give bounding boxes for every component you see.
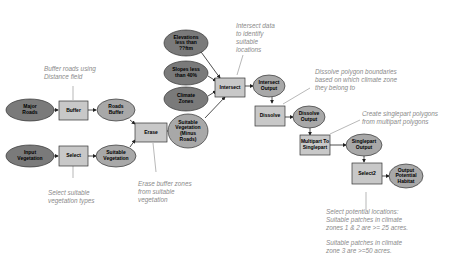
- erase-annotation: Erase buffer zones from suitable vegetat…: [138, 180, 192, 204]
- elevations-node[interactable]: [164, 30, 208, 56]
- climate-zones-node[interactable]: [164, 87, 208, 111]
- buffer-annotation: Buffer roads using Distance field: [44, 65, 96, 81]
- intersect-annotation: Intersect data to identify suitable loca…: [236, 22, 275, 54]
- suitable-veg-minus-roads-node[interactable]: [168, 114, 208, 148]
- singlepart-note-line: [330, 120, 360, 134]
- select2-annotation-1: Select potential locations: Suitable pat…: [326, 208, 408, 232]
- intersect-tool[interactable]: [215, 78, 245, 97]
- intersect-output-node[interactable]: [253, 75, 285, 97]
- erase-tool[interactable]: [135, 123, 167, 142]
- suitable-vegetation-node[interactable]: [96, 145, 136, 167]
- input-vegetation-node[interactable]: [6, 145, 54, 167]
- dissolve-note-line: [283, 88, 310, 104]
- dissolve-tool[interactable]: [255, 106, 285, 126]
- slopes-node[interactable]: [164, 61, 208, 85]
- intersect-note-line: [237, 55, 243, 75]
- output-potential-habitat-node[interactable]: [389, 164, 423, 188]
- roads-buffer-node[interactable]: [97, 99, 135, 121]
- dissolve-output-node[interactable]: [293, 106, 325, 128]
- select2-tool[interactable]: [352, 163, 382, 184]
- select-annotation: Select suitable vegetation types: [48, 189, 95, 205]
- buffer-tool[interactable]: [59, 101, 88, 120]
- dissolve-annotation: Dissolve polygon boundaries based on whi…: [315, 68, 397, 92]
- singlepart-annotation: Create singlepart polygons from multipar…: [362, 110, 438, 126]
- select2-annotation-2: Suitable patches in climate zone 3 are >…: [326, 239, 402, 255]
- erase-note-line: [153, 143, 156, 172]
- singlepart-output-node[interactable]: [346, 134, 382, 156]
- major-roads-node[interactable]: [6, 99, 54, 121]
- multipart-to-singlepart-tool[interactable]: [300, 135, 330, 155]
- select-tool[interactable]: [59, 146, 88, 166]
